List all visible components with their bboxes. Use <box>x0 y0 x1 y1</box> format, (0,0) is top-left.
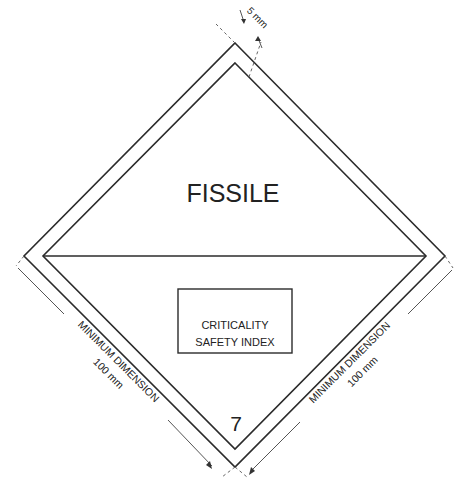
fissile-title: FISSILE <box>186 179 279 207</box>
csi-label-line2: SAFETY INDEX <box>195 336 275 348</box>
border-width-dimension: 5 mm <box>216 5 270 77</box>
border-width-label: 5 mm <box>245 5 270 30</box>
outer-diamond <box>24 43 445 467</box>
csi-label-line1: CRITICALITY <box>201 319 269 331</box>
class-number: 7 <box>230 412 242 435</box>
left-dimension-label: MINIMUM DIMENSION <box>76 318 162 404</box>
fissile-label-diagram: FISSILE CRITICALITY SAFETY INDEX 7 5 mm … <box>0 0 467 498</box>
